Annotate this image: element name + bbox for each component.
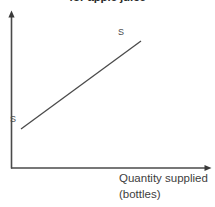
supply-curve-line [21, 41, 141, 129]
supply-curve-label-lower: S [10, 114, 16, 124]
arrow-up-icon [8, 11, 14, 18]
x-axis-label: Quantity supplied (bottles) [119, 170, 215, 202]
x-axis-label-line2: (bottles) [119, 186, 215, 202]
x-axis-label-line1: Quantity supplied [119, 172, 208, 184]
supply-curve-label-upper: S [118, 27, 124, 37]
supply-curve-figure: for apple juice S S Quantity supplied (b… [0, 0, 215, 207]
